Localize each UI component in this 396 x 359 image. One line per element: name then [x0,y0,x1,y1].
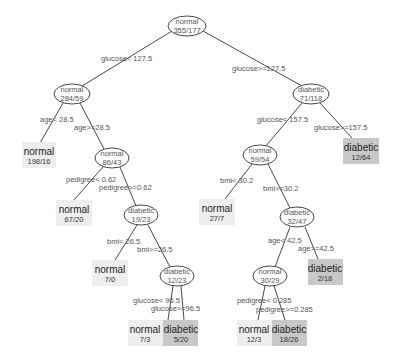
node-class-label: diabetic [128,206,154,215]
leaf-count-label: 27/7 [210,214,225,223]
split-label: glucose>=96.5 [151,304,200,313]
node-class-label: normal [259,267,282,276]
leaf-count-label: 12/64 [352,153,371,162]
leaf-normal-7-3: normal 7/3 [128,320,163,346]
split-label: glucose>=157.5 [314,123,367,132]
node-diabetic-71-118: diabetic 71/118 [293,84,329,104]
edge-n32-right [305,227,318,259]
split-label: bmi>=30.2 [263,184,298,193]
node-diabetic-32-47: diabetic 32/47 [280,207,314,227]
node-count-label: 30/29 [261,276,280,285]
split-label: bmi< 26.5 [107,237,140,246]
split-label: pedigree>=0.62 [99,183,152,192]
node-count-label: 59/54 [251,155,270,164]
split-label: age< 42.5 [268,236,302,245]
node-diabetic-19-23: diabetic 19/23 [124,205,158,225]
split-label: glucose< 157.5 [257,115,308,124]
node-count-label: 32/47 [288,217,307,226]
leaf-class-label: diabetic [344,142,378,153]
leaf-class-label: normal [95,264,126,275]
leaf-count-label: 67/20 [65,215,84,224]
node-class-label: diabetic [298,85,324,94]
edge-n12-right [181,286,184,320]
node-normal-59-54: normal 59/54 [243,145,277,165]
edge-root-right [203,31,302,86]
leaf-count-label: 18/26 [280,335,299,344]
leaf-count-label: 7/3 [140,335,150,344]
leaf-class-label: diabetic [308,263,342,274]
leaf-count-label: 7/0 [105,275,115,284]
leaf-diabetic-5-20: diabetic 5/20 [163,320,198,346]
leaf-normal-7-0: normal 7/0 [92,260,128,286]
node-class-label: normal [176,17,199,26]
node-class-label: diabetic [164,267,190,276]
leaf-class-label: normal [59,204,90,215]
node-class-label: normal [249,146,272,155]
leaf-normal-198-16: normal 198/16 [22,142,56,168]
edge-n71-left [266,103,302,146]
split-label: glucose< 127.5 [101,54,152,63]
node-normal-30-29: normal 30/29 [253,266,287,286]
node-normal-284-59: normal 284/59 [54,84,90,104]
leaf-diabetic-2-18: diabetic 2/18 [308,259,343,285]
split-label: age>=42.5 [298,244,334,253]
node-root: normal 355/177 [168,16,206,36]
node-class-label: normal [61,85,84,94]
split-label: bmi< 30.2 [220,176,253,185]
split-label: age< 28.5 [40,115,74,124]
leaf-class-label: normal [130,324,161,335]
split-label: pedigree< 0.285 [237,296,291,305]
leaf-normal-27-7: normal 27/7 [199,199,235,225]
node-count-label: 284/59 [61,94,84,103]
leaf-diabetic-18-26: diabetic 18/26 [272,320,307,346]
leaf-count-label: 12/3 [247,335,262,344]
leaf-class-label: diabetic [272,324,306,335]
node-count-label: 19/23 [132,215,151,224]
node-class-label: normal [101,149,124,158]
node-count-label: 355/177 [173,26,200,35]
split-label: bmi>=26.5 [137,245,172,254]
leaf-count-label: 198/16 [28,157,51,166]
node-count-label: 12/23 [168,276,187,285]
edge-n71-right [320,103,352,138]
split-label: pedigree>=0.285 [256,305,313,314]
leaf-class-label: diabetic [164,324,198,335]
split-label: age>=28.5 [74,123,110,132]
leaf-count-label: 5/20 [174,335,189,344]
node-class-label: diabetic [284,208,310,217]
leaf-class-label: normal [202,203,233,214]
node-count-label: 86/43 [103,158,122,167]
leaf-diabetic-12-64: diabetic 12/64 [343,138,379,164]
leaf-normal-67-20: normal 67/20 [56,200,92,226]
leaf-class-label: normal [239,324,270,335]
leaf-count-label: 2/18 [318,274,333,283]
node-normal-86-43: normal 86/43 [95,148,129,168]
leaf-normal-12-3: normal 12/3 [237,320,272,346]
edge-n32-left [275,227,290,267]
node-diabetic-12-23: diabetic 12/23 [160,266,194,286]
leaf-class-label: normal [24,146,55,157]
split-label: glucose>=127.5 [232,64,285,73]
node-count-label: 71/118 [300,94,322,103]
decision-tree: glucose< 127.5 glucose>=127.5 age< 28.5 … [0,0,396,359]
